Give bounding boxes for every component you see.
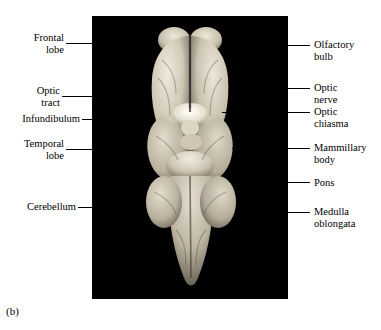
leader-cerebellum — [78, 207, 140, 208]
infundibulum-shape — [181, 120, 199, 136]
label-olfactory-bulb: Olfactory bulb — [314, 39, 376, 62]
leader-infundibulum — [82, 119, 137, 120]
label-optic-nerve: Optic nerve — [314, 82, 372, 105]
leader-optic-chiasma — [222, 112, 310, 113]
leader-pons — [246, 182, 310, 183]
leader-olfactory-bulb — [228, 45, 310, 46]
label-mammillary-body: Mammillary body — [314, 142, 380, 165]
mammillary-body-shape — [180, 134, 202, 150]
brain-illustration — [92, 16, 288, 299]
leader-temporal-lobe — [66, 149, 124, 150]
label-cerebellum: Cerebellum — [6, 201, 76, 213]
label-pons: Pons — [314, 177, 364, 189]
label-optic-chiasma: Optic chiasma — [314, 106, 376, 129]
cerebellum-left-shape — [146, 176, 182, 228]
label-infundibulum: Infundibulum — [6, 113, 80, 125]
cerebellum-right-shape — [200, 176, 236, 228]
label-frontal-lobe: Frontal lobe — [8, 32, 64, 55]
label-temporal-lobe: Temporal lobe — [8, 138, 64, 161]
leader-optic-nerve — [238, 88, 310, 89]
leader-mammillary-body — [232, 148, 310, 149]
sheep-brain-image — [92, 16, 288, 299]
leader-optic-tract — [62, 96, 130, 97]
medulla-midline — [190, 176, 191, 278]
leader-frontal-lobe — [66, 43, 118, 44]
leader-medulla-oblongata — [242, 212, 310, 213]
figure-panel: Frontal lobe Optic tract Infundibulum Te… — [0, 0, 381, 330]
label-medulla-oblongata: Medulla oblongata — [314, 206, 376, 229]
brain-photograph — [92, 16, 288, 299]
figure-caption: (b) — [6, 305, 19, 317]
label-optic-tract: Optic tract — [8, 85, 60, 108]
